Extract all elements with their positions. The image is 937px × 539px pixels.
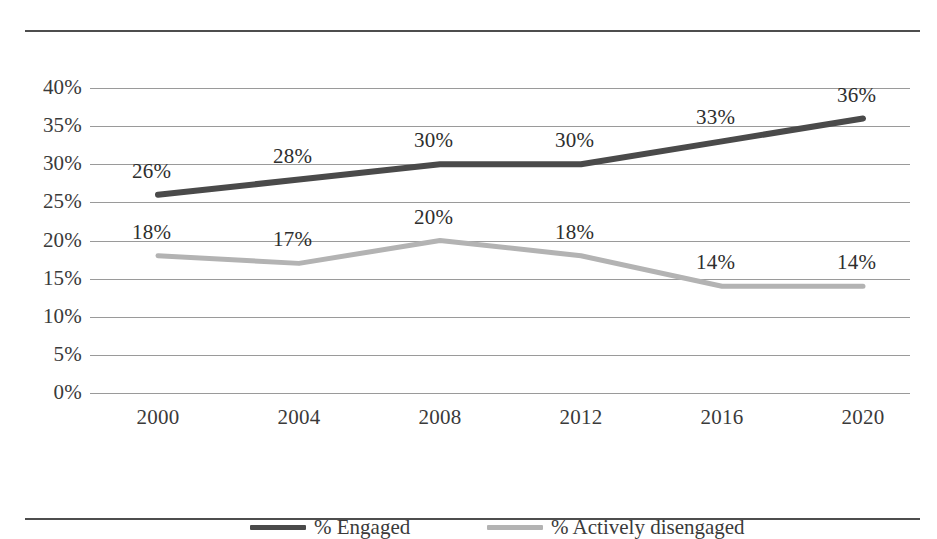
data-point-label: 30% <box>555 130 594 151</box>
page-rule-bottom <box>25 518 920 520</box>
data-point-label: 30% <box>414 130 453 151</box>
data-point-label: 36% <box>837 85 876 106</box>
legend-swatch-icon <box>487 525 543 530</box>
series-line <box>158 119 863 195</box>
data-point-label: 18% <box>132 222 171 243</box>
legend-item[interactable]: % Actively disengaged <box>487 517 745 538</box>
line-chart: 0%5%10%15%20%25%30%35%40% 20002004200820… <box>0 55 937 495</box>
data-point-label: 33% <box>696 107 735 128</box>
plot-lines <box>0 55 937 495</box>
series-line <box>158 241 863 287</box>
data-point-label: 14% <box>696 252 735 273</box>
chart-legend: % Engaged% Actively disengaged <box>0 455 937 495</box>
data-point-label: 28% <box>273 146 312 167</box>
legend-label: % Actively disengaged <box>551 517 745 538</box>
data-point-label: 20% <box>414 207 453 228</box>
legend-label: % Engaged <box>314 517 410 538</box>
data-point-label: 26% <box>132 161 171 182</box>
data-point-label: 18% <box>555 222 594 243</box>
legend-item[interactable]: % Engaged <box>250 517 410 538</box>
legend-swatch-icon <box>250 525 306 530</box>
page-rule-top <box>25 30 920 32</box>
data-point-label: 14% <box>837 252 876 273</box>
data-point-label: 17% <box>273 229 312 250</box>
